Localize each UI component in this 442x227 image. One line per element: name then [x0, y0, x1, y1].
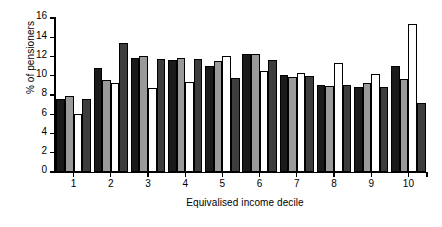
bar-series-2-decile-1 [65, 96, 74, 172]
y-axis-tick-label: 4 [25, 126, 47, 137]
bar-series-1-decile-1 [56, 99, 65, 172]
bar-series-4-decile-1 [82, 99, 91, 172]
bar-series-2-decile-10 [400, 79, 409, 172]
bar-series-1-decile-3 [131, 58, 140, 172]
y-axis-tick-label: 12 [25, 49, 47, 60]
bar-series-3-decile-9 [371, 74, 380, 172]
bar-series-2-decile-9 [363, 83, 372, 173]
x-axis-tick-label: 4 [170, 178, 200, 189]
x-axis-tick-label: 10 [393, 178, 423, 189]
x-axis-tick [185, 172, 186, 177]
plot-area: 0246810121416 [55, 18, 427, 172]
bar-series-3-decile-5 [222, 56, 231, 172]
x-axis-tick [73, 172, 74, 177]
y-axis-tick: 14 [50, 37, 55, 38]
y-axis-tick: 6 [50, 114, 55, 115]
x-axis-tick [408, 172, 409, 177]
x-axis-tick [371, 172, 372, 177]
x-axis-tick-label: 6 [245, 178, 275, 189]
bar-series-1-decile-2 [94, 68, 103, 172]
y-axis-tick-label: 2 [25, 145, 47, 156]
bar-series-2-decile-7 [288, 77, 297, 172]
bar-series-4-decile-3 [157, 59, 166, 172]
bar-series-2-decile-8 [325, 86, 334, 172]
bar-series-1-decile-10 [391, 66, 400, 172]
x-axis-tick [147, 172, 148, 177]
bar-series-2-decile-2 [102, 80, 111, 172]
bar-series-2-decile-3 [139, 56, 148, 172]
bar-series-1-decile-5 [205, 66, 214, 172]
bar-chart-figure: % of pensioners 0246810121416 Equivalise… [0, 0, 442, 227]
bar-series-1-decile-7 [280, 75, 289, 172]
bar-series-3-decile-8 [334, 63, 343, 172]
y-axis-tick: 8 [50, 94, 55, 95]
bar-series-4-decile-5 [231, 78, 240, 172]
y-axis-tick-label: 0 [25, 164, 47, 175]
bar-series-2-decile-6 [251, 54, 260, 172]
x-axis-tick-label: 2 [96, 178, 126, 189]
bar-series-4-decile-10 [417, 103, 426, 172]
x-axis-tick-label: 9 [356, 178, 386, 189]
bar-series-3-decile-2 [111, 83, 120, 173]
bar-series-3-decile-1 [74, 114, 83, 172]
y-axis-tick-label: 10 [25, 68, 47, 79]
bar-series-1-decile-9 [354, 87, 363, 172]
y-axis-tick: 16 [50, 17, 55, 18]
y-axis-tick: 0 [50, 171, 55, 172]
bar-series-3-decile-3 [148, 88, 157, 172]
y-axis-tick-label: 16 [25, 10, 47, 21]
y-axis-tick: 2 [50, 152, 55, 153]
x-axis-tick [296, 172, 297, 177]
y-axis-tick-label: 8 [25, 87, 47, 98]
y-axis-tick: 10 [50, 75, 55, 76]
y-axis-tick-label: 6 [25, 107, 47, 118]
bar-series-3-decile-4 [185, 82, 194, 172]
bar-series-4-decile-2 [119, 43, 128, 172]
y-axis-tick: 4 [50, 133, 55, 134]
bar-series-4-decile-8 [343, 85, 352, 172]
bar-series-4-decile-7 [305, 76, 314, 172]
y-axis-tick-label: 14 [25, 30, 47, 41]
bar-series-1-decile-8 [317, 85, 326, 172]
bar-series-3-decile-7 [297, 73, 306, 172]
x-axis-tick [333, 172, 334, 177]
bar-series-3-decile-10 [408, 24, 417, 172]
bar-series-1-decile-4 [168, 60, 177, 172]
x-axis-tick-label: 1 [59, 178, 89, 189]
x-axis-tick [259, 172, 260, 177]
x-axis-tick-label: 5 [207, 178, 237, 189]
bar-series-4-decile-6 [268, 60, 277, 172]
y-axis-tick: 12 [50, 56, 55, 57]
x-axis-tick-label: 3 [133, 178, 163, 189]
x-axis-end-tick [426, 172, 427, 177]
bar-series-4-decile-4 [194, 59, 203, 172]
bar-series-3-decile-6 [260, 71, 269, 172]
bar-series-2-decile-4 [177, 58, 186, 172]
x-axis-tick-label: 8 [319, 178, 349, 189]
bar-series-1-decile-6 [242, 54, 251, 172]
bar-series-4-decile-9 [380, 87, 389, 172]
x-axis-title: Equivalised income decile [55, 197, 435, 208]
x-axis-tick-label: 7 [282, 178, 312, 189]
x-axis-tick [222, 172, 223, 177]
x-axis-tick [110, 172, 111, 177]
bar-series-2-decile-5 [214, 61, 223, 172]
